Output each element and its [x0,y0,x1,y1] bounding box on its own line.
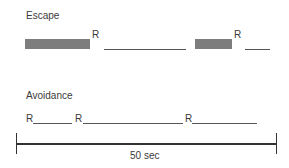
avoidance-title: Avoidance [26,91,73,101]
escape-interval-line-1 [104,49,186,50]
escape-shock-bar-2 [195,39,232,49]
timescale-right-tick [276,133,277,154]
escape-shock-bar-1 [25,39,90,49]
timescale-label: 50 sec [130,151,159,161]
timescale-axis-line [16,143,277,145]
escape-response-mark-1: R [92,30,99,40]
escape-response-mark-2: R [234,30,241,40]
escape-interval-line-2 [245,49,270,50]
avoidance-interval-line-3 [192,123,257,124]
avoidance-response-mark-2: R [75,114,82,124]
avoidance-interval-line-1 [33,123,72,124]
escape-title: Escape [26,11,59,21]
avoidance-interval-line-2 [83,123,183,124]
